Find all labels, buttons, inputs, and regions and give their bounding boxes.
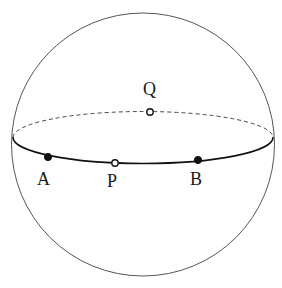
point-marker-B[interactable] xyxy=(194,156,201,163)
point-label-p: P xyxy=(107,172,117,190)
point-label-a: A xyxy=(37,170,50,188)
great-circle-visible-arc xyxy=(13,138,273,164)
sphere-diagram-canvas xyxy=(0,0,282,288)
point-marker-P[interactable] xyxy=(112,160,118,166)
point-label-q: Q xyxy=(143,80,156,98)
great-circle-hidden-arc xyxy=(13,112,273,138)
sphere-outline-circle xyxy=(12,13,275,276)
point-marker-A[interactable] xyxy=(44,153,51,160)
point-markers xyxy=(44,109,201,166)
point-marker-Q[interactable] xyxy=(147,109,153,115)
geometry-figure: A P B Q xyxy=(0,0,282,288)
point-label-b: B xyxy=(190,170,202,188)
